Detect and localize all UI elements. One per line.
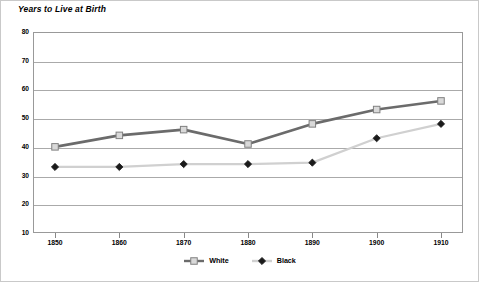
legend-marker-diamond-icon [251,256,273,266]
data-point-white-1890 [309,121,316,128]
data-point-black-1880 [244,160,251,167]
data-point-black-1870 [180,160,187,167]
data-point-white-1850 [52,144,59,151]
y-tick-label-40: 40 [3,144,29,151]
x-tick-label-1880: 1880 [240,240,255,247]
x-tick-1860 [119,233,120,238]
x-tick-1880 [248,233,249,238]
series-line-white [55,101,441,147]
data-point-black-1860 [116,163,123,170]
legend-marker-square-icon [183,256,205,266]
x-tick-label-1900: 1900 [369,240,384,247]
series-layer [33,32,463,233]
y-tick-label-10: 10 [3,230,29,237]
data-point-black-1910 [437,120,444,127]
legend-item-white[interactable]: White [183,256,229,266]
x-tick-1850 [55,233,56,238]
y-tick-label-30: 30 [3,172,29,179]
data-point-white-1860 [116,132,123,139]
y-tick-label-50: 50 [3,115,29,122]
x-tick-1870 [184,233,185,238]
legend-label-white: White [209,257,229,264]
data-point-black-1900 [373,135,380,142]
x-tick-label-1850: 1850 [47,240,62,247]
data-point-white-1900 [373,106,380,113]
data-point-white-1870 [180,126,187,133]
x-axis: 1850186018701880189019001910 [33,240,463,254]
y-axis: 1020304050607080 [0,32,29,233]
legend-label-black: Black [277,257,296,264]
x-tick-label-1890: 1890 [305,240,320,247]
x-tick-label-1860: 1860 [112,240,127,247]
x-tick-1900 [377,233,378,238]
y-tick-label-70: 70 [3,57,29,64]
data-point-black-1850 [51,163,58,170]
data-point-white-1910 [438,98,445,105]
chart-legend: WhiteBlack [0,256,479,266]
data-point-white-1880 [245,141,252,148]
chart-container: Years to Live at Birth 1020304050607080 … [0,0,479,282]
x-tick-1890 [312,233,313,238]
x-tick-1910 [441,233,442,238]
y-tick-label-20: 20 [3,201,29,208]
legend-item-black[interactable]: Black [251,256,296,266]
x-tick-label-1870: 1870 [176,240,191,247]
y-tick-label-80: 80 [3,29,29,36]
data-point-black-1890 [309,159,316,166]
x-tick-label-1910: 1910 [433,240,448,247]
chart-title: Years to Live at Birth [18,4,106,14]
y-tick-label-60: 60 [3,86,29,93]
